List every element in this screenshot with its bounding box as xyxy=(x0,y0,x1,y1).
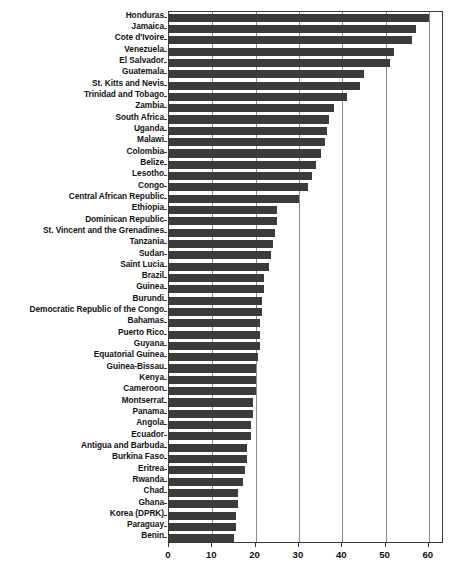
bar[interactable] xyxy=(169,240,273,248)
bar[interactable] xyxy=(169,217,277,225)
bar[interactable] xyxy=(169,115,329,123)
bar[interactable] xyxy=(169,138,325,146)
bar[interactable] xyxy=(169,432,251,440)
category-tick xyxy=(164,435,167,436)
bar[interactable] xyxy=(169,410,253,418)
bar[interactable] xyxy=(169,263,269,271)
bar[interactable] xyxy=(169,398,253,406)
bar-row xyxy=(169,431,442,442)
bar[interactable] xyxy=(169,331,260,339)
category-label: Antigua and Barbuda xyxy=(0,440,164,452)
bar-row xyxy=(169,57,442,68)
bar-row xyxy=(169,238,442,249)
bar-row xyxy=(169,182,442,193)
category-label: Jamaica xyxy=(0,21,164,33)
category-tick xyxy=(164,164,167,165)
bar[interactable] xyxy=(169,500,238,508)
bar[interactable] xyxy=(169,14,429,22)
category-tick xyxy=(164,469,167,470)
bar[interactable] xyxy=(169,36,412,44)
horizontal-bar-chart: HondurasJamaicaCote d'IvoireVenezuelaEl … xyxy=(0,0,457,571)
category-label: Lesotho xyxy=(0,168,164,180)
bar[interactable] xyxy=(169,455,247,463)
category-tick xyxy=(164,288,167,289)
bar-row xyxy=(169,227,442,238)
bar[interactable] xyxy=(169,466,245,474)
value-axis-labels: 0102030405060 xyxy=(0,549,457,565)
bar[interactable] xyxy=(169,444,247,452)
category-label: Ecuador xyxy=(0,429,164,441)
bar[interactable] xyxy=(169,183,308,191)
bar[interactable] xyxy=(169,376,256,384)
category-label: Ghana xyxy=(0,497,164,509)
bar[interactable] xyxy=(169,478,243,486)
value-tick-20 xyxy=(255,543,256,547)
bar-row xyxy=(169,318,442,329)
bar[interactable] xyxy=(169,353,258,361)
bar[interactable] xyxy=(169,48,394,56)
bar[interactable] xyxy=(169,319,260,327)
category-tick xyxy=(164,85,167,86)
category-tick xyxy=(164,345,167,346)
category-label: St. Vincent and the Grenadines xyxy=(0,225,164,237)
category-tick xyxy=(164,119,167,120)
category-label: Brazil xyxy=(0,270,164,282)
category-axis-labels: HondurasJamaicaCote d'IvoireVenezuelaEl … xyxy=(0,11,164,543)
category-tick xyxy=(164,39,167,40)
bar[interactable] xyxy=(169,251,271,259)
bar[interactable] xyxy=(169,195,299,203)
bar[interactable] xyxy=(169,364,256,372)
bar[interactable] xyxy=(169,149,321,157)
category-tick xyxy=(164,73,167,74)
bar[interactable] xyxy=(169,172,312,180)
category-label: Ethiopia xyxy=(0,202,164,214)
bar-row xyxy=(169,397,442,408)
bar-row xyxy=(169,23,442,34)
category-tick xyxy=(164,390,167,391)
category-label: Guatemala xyxy=(0,66,164,78)
bar[interactable] xyxy=(169,387,256,395)
bar[interactable] xyxy=(169,534,234,542)
category-tick xyxy=(164,152,167,153)
bar[interactable] xyxy=(169,297,262,305)
bar-row xyxy=(169,465,442,476)
bar[interactable] xyxy=(169,489,238,497)
category-tick xyxy=(164,17,167,18)
category-label: Cameroon xyxy=(0,383,164,395)
bar[interactable] xyxy=(169,512,236,520)
category-tick xyxy=(164,379,167,380)
bar[interactable] xyxy=(169,93,347,101)
value-tick-label: 30 xyxy=(293,549,304,560)
bar-row xyxy=(169,363,442,374)
bar[interactable] xyxy=(169,274,264,282)
category-tick xyxy=(164,232,167,233)
value-tick-label: 60 xyxy=(422,549,433,560)
bar[interactable] xyxy=(169,523,236,531)
bar-row xyxy=(169,261,442,272)
bar[interactable] xyxy=(169,104,334,112)
category-tick xyxy=(164,368,167,369)
category-label: Paraguay xyxy=(0,519,164,531)
bar[interactable] xyxy=(169,25,416,33)
bar[interactable] xyxy=(169,70,364,78)
category-tick xyxy=(164,481,167,482)
bar[interactable] xyxy=(169,421,251,429)
category-tick xyxy=(164,220,167,221)
category-label: Korea (DPRK) xyxy=(0,508,164,520)
bar[interactable] xyxy=(169,285,264,293)
value-tick-label: 10 xyxy=(206,549,217,560)
bar-row xyxy=(169,521,442,532)
bar-row xyxy=(169,453,442,464)
bar[interactable] xyxy=(169,59,390,67)
bar[interactable] xyxy=(169,161,316,169)
value-tick-label: 50 xyxy=(379,549,390,560)
bar-row xyxy=(169,91,442,102)
category-label: Rwanda xyxy=(0,474,164,486)
bar[interactable] xyxy=(169,229,275,237)
bar[interactable] xyxy=(169,82,360,90)
bar[interactable] xyxy=(169,342,260,350)
bar[interactable] xyxy=(169,308,262,316)
bar[interactable] xyxy=(169,206,277,214)
bar[interactable] xyxy=(169,127,327,135)
category-tick xyxy=(164,537,167,538)
